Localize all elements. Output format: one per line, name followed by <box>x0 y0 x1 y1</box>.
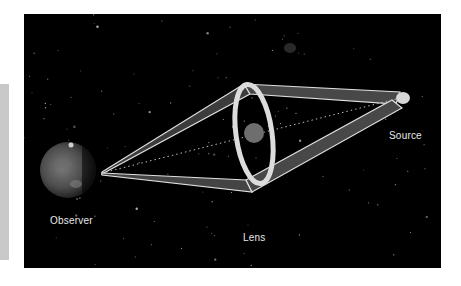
star <box>68 140 69 141</box>
lower-light-path-near <box>102 173 252 192</box>
faint-nebula <box>284 43 296 53</box>
star <box>244 121 245 122</box>
star <box>95 264 96 265</box>
star <box>76 198 78 200</box>
star <box>216 53 217 54</box>
lens-label: Lens <box>243 232 266 243</box>
star <box>192 70 193 71</box>
star <box>79 197 80 198</box>
star <box>395 184 396 185</box>
star <box>363 169 364 170</box>
star <box>396 158 397 159</box>
star <box>299 140 301 142</box>
star <box>244 253 245 254</box>
star <box>295 113 296 114</box>
star <box>31 92 32 93</box>
star <box>422 96 423 97</box>
star <box>80 70 81 71</box>
star <box>349 189 350 190</box>
star <box>208 142 209 143</box>
star <box>50 104 51 105</box>
star <box>407 171 408 172</box>
star <box>45 103 46 104</box>
observer-planet <box>40 134 112 214</box>
star <box>280 123 281 124</box>
star <box>206 226 207 227</box>
star <box>123 238 124 239</box>
star <box>149 111 151 113</box>
star <box>134 74 135 75</box>
star <box>298 53 299 54</box>
star <box>393 254 394 255</box>
star <box>94 216 95 217</box>
star <box>93 14 94 15</box>
star <box>214 235 215 236</box>
star-field <box>24 14 428 266</box>
side-panel <box>0 84 9 260</box>
star <box>125 146 126 147</box>
star <box>228 156 229 157</box>
star <box>385 119 386 120</box>
star <box>217 77 218 78</box>
star <box>231 192 232 193</box>
lens-body <box>244 123 264 143</box>
star <box>170 102 171 103</box>
star <box>139 103 140 104</box>
star <box>275 115 276 116</box>
star <box>100 180 101 181</box>
star <box>247 224 248 225</box>
star <box>135 256 136 257</box>
star <box>255 158 256 159</box>
star <box>70 97 71 98</box>
star <box>151 244 152 245</box>
star <box>136 208 138 210</box>
star <box>322 176 323 177</box>
star <box>252 97 253 98</box>
star <box>426 216 428 218</box>
star <box>167 174 168 175</box>
star <box>251 265 252 266</box>
star <box>96 26 98 28</box>
star <box>73 126 75 128</box>
star <box>211 233 212 234</box>
star <box>368 202 369 203</box>
star <box>370 59 371 60</box>
star <box>94 23 95 24</box>
star <box>286 108 287 109</box>
source-label: Source <box>389 130 422 141</box>
star <box>189 86 190 87</box>
star <box>43 118 44 119</box>
star <box>47 79 48 80</box>
star <box>34 53 35 54</box>
star <box>353 48 354 49</box>
star <box>29 76 30 77</box>
star <box>410 232 411 233</box>
star <box>424 144 425 145</box>
star <box>206 32 208 34</box>
star <box>208 153 209 154</box>
star <box>161 20 162 21</box>
star <box>299 234 300 235</box>
star <box>113 113 114 114</box>
lensing-diagram <box>24 14 441 268</box>
star <box>284 35 285 36</box>
star <box>58 50 59 51</box>
star <box>282 39 283 40</box>
star <box>255 20 256 21</box>
star <box>107 147 108 148</box>
star <box>198 153 199 154</box>
star <box>229 27 230 28</box>
star <box>223 119 224 120</box>
star <box>278 111 279 112</box>
source-object <box>396 92 410 104</box>
upper-light-path-near <box>102 84 250 174</box>
star <box>424 168 425 169</box>
star <box>212 201 213 202</box>
upper-light-path-far <box>244 84 400 104</box>
star <box>202 191 203 192</box>
star <box>226 77 227 78</box>
star <box>154 221 155 222</box>
star <box>67 129 68 130</box>
star <box>45 107 46 108</box>
star <box>377 204 378 205</box>
